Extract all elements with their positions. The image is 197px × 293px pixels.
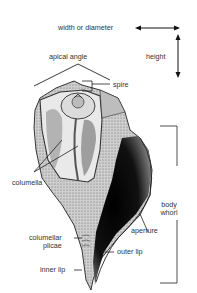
height-arrow bbox=[176, 34, 181, 78]
columellar-plicae-label-line2: plicae bbox=[43, 242, 62, 250]
inner-lip-label: inner lip bbox=[40, 266, 65, 274]
body-whorl-label-line2: whorl bbox=[157, 209, 181, 217]
apical-angle-label: apical angle bbox=[49, 53, 87, 61]
shell-illustration bbox=[34, 81, 152, 290]
columella-label: columella bbox=[12, 179, 42, 187]
width-label: width or diameter bbox=[58, 24, 113, 32]
shell-diagram bbox=[0, 0, 197, 293]
width-arrow bbox=[135, 26, 180, 31]
aperture-label: aperture bbox=[131, 227, 158, 235]
spire-label: spire bbox=[113, 81, 129, 89]
outer-lip-label: outer lip bbox=[117, 248, 143, 256]
height-label: height bbox=[146, 53, 166, 61]
